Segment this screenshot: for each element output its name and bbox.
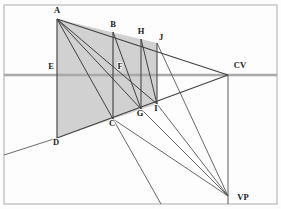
- point-label-H: H: [138, 26, 145, 36]
- point-label-C: C: [109, 118, 115, 128]
- ray-C-to-bottom-edge: [113, 119, 161, 204]
- point-label-F: F: [117, 61, 122, 71]
- perspective-diagram-canvas: A B H J E F CV C G I D VP: [0, 0, 281, 209]
- perspective-diagram-root: A B H J E F CV C G I D VP: [0, 0, 281, 209]
- point-label-B: B: [110, 19, 116, 29]
- point-label-CV: CV: [234, 60, 247, 70]
- point-label-D: D: [53, 137, 59, 147]
- point-label-G: G: [137, 108, 144, 118]
- ray-G-to-VP: [141, 109, 228, 196]
- ground-line-extension: [4, 138, 57, 155]
- point-label-E: E: [48, 61, 54, 71]
- ray-C-to-VP: [113, 119, 228, 196]
- ray-I-to-VP: [157, 104, 228, 196]
- point-label-VP: VP: [237, 192, 248, 202]
- point-label-A: A: [54, 5, 61, 15]
- ray-J-to-VP: [157, 43, 228, 196]
- point-label-J: J: [159, 32, 164, 42]
